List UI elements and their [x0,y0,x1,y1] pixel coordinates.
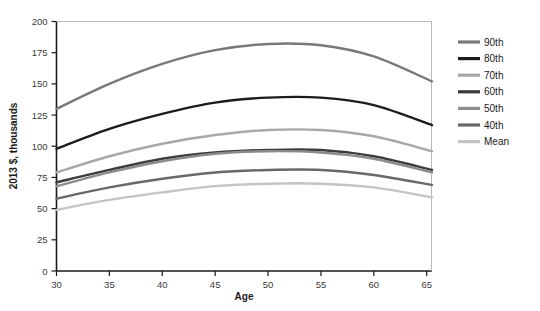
x-tick-label: 50 [263,279,274,290]
y-tick-label: 75 [37,172,48,183]
y-tick-label: 0 [42,266,47,277]
y-tick-label: 200 [32,16,48,27]
chart-background [0,0,540,311]
x-tick-label: 45 [210,279,221,290]
y-tick-label: 150 [32,78,48,89]
y-tick-label: 100 [32,141,48,152]
x-axis-title: Age [235,291,254,302]
y-tick-label: 125 [32,110,48,121]
legend-label: 50th [484,103,503,114]
y-tick-label: 50 [37,203,48,214]
y-axis-title: 2013 $, thousands [8,102,19,189]
x-tick-label: 40 [157,279,168,290]
x-tick-label: 60 [369,279,380,290]
y-tick-label: 175 [32,47,48,58]
x-tick-label: 55 [316,279,327,290]
legend-label: 60th [484,86,503,97]
legend-label: 70th [484,70,503,81]
x-tick-label: 35 [104,279,115,290]
legend-label: 40th [484,120,503,131]
legend-label: 90th [484,37,503,48]
x-tick-label: 65 [421,279,432,290]
legend-label: Mean [484,136,509,147]
y-tick-label: 25 [37,234,48,245]
legend-label: 80th [484,53,503,64]
line-chart-figure: 0255075100125150175200 3035404550556065 … [0,0,540,311]
x-tick-label: 30 [51,279,62,290]
